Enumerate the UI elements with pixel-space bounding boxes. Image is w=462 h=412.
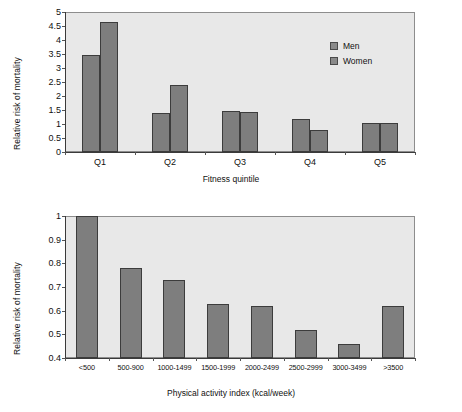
legend-label-men: Men — [343, 41, 360, 51]
y-tick-label: 0.7 — [48, 283, 61, 292]
bar — [251, 306, 273, 358]
x-axis-title-bottom: Physical activity index (kcal/week) — [0, 388, 462, 398]
x-tick-label: 1500-1999 — [201, 363, 235, 373]
x-tick-label: 3000-3499 — [332, 363, 366, 373]
x-tick-mark — [371, 358, 372, 361]
y-axis-ticks-top: 00.511.522.533.544.55 — [35, 0, 61, 172]
x-tick-label: 500-900 — [118, 363, 144, 373]
bar — [207, 304, 229, 358]
physical-activity-figure: Relative risk of mortality 0.40.50.60.70… — [0, 200, 462, 412]
x-tick-mark — [284, 358, 285, 361]
bar — [292, 119, 310, 152]
x-tick-label: 1000-1499 — [157, 363, 191, 373]
bar — [82, 55, 100, 152]
y-axis-line — [65, 12, 66, 152]
x-tick-mark — [240, 358, 241, 361]
y-tick-label: 3.5 — [48, 50, 61, 59]
x-tick-mark — [196, 358, 197, 361]
x-tick-label: Q4 — [304, 157, 316, 167]
legend-item-men: Men — [330, 40, 372, 52]
x-tick-label: Q1 — [94, 157, 106, 167]
y-tick-label: 0.4 — [48, 354, 61, 363]
y-tick-label: 0.5 — [48, 330, 61, 339]
y-axis-line — [65, 216, 66, 358]
x-tick-mark — [275, 152, 276, 155]
bar — [240, 112, 258, 152]
y-tick-label: 1.5 — [48, 106, 61, 115]
bar — [295, 330, 317, 358]
y-tick-label: 0.8 — [48, 259, 61, 268]
bar — [170, 85, 188, 152]
y-tick-label: 2 — [56, 92, 61, 101]
bar — [310, 130, 328, 152]
y-tick-label: 1 — [56, 212, 61, 221]
legend-swatch-women — [330, 57, 338, 65]
bar — [362, 123, 380, 152]
x-tick-mark — [415, 152, 416, 155]
bar — [100, 22, 118, 152]
y-tick-label: 4 — [56, 36, 61, 45]
legend-swatch-men — [330, 42, 338, 50]
y-axis-title-bottom: Relative risk of mortality — [12, 262, 22, 355]
y-tick-label: 5 — [56, 8, 61, 17]
y-tick-label: 0 — [56, 148, 61, 157]
y-axis-title-top: Relative risk of mortality — [12, 57, 22, 150]
x-tick-label: >3500 — [383, 363, 403, 373]
x-tick-label: <500 — [79, 363, 95, 373]
x-tick-mark — [345, 152, 346, 155]
bar — [382, 306, 404, 358]
x-tick-label: Q5 — [374, 157, 386, 167]
x-tick-mark — [135, 152, 136, 155]
y-tick-label: 0.6 — [48, 306, 61, 315]
x-tick-label: Q2 — [164, 157, 176, 167]
x-tick-label: 2500-2999 — [289, 363, 323, 373]
y-tick-label: 1 — [56, 120, 61, 129]
x-axis-title-top: Fitness quintile — [0, 174, 462, 184]
y-tick-label: 0.5 — [48, 134, 61, 143]
x-tick-label: 2000-2499 — [245, 363, 279, 373]
y-tick-label: 3 — [56, 64, 61, 73]
fitness-quintile-figure: Relative risk of mortality 00.511.522.53… — [0, 0, 462, 200]
x-tick-mark — [65, 152, 66, 155]
bar — [380, 123, 398, 152]
legend-label-women: Women — [343, 56, 372, 66]
bar — [152, 113, 170, 152]
x-tick-mark — [328, 358, 329, 361]
bar — [222, 111, 240, 152]
legend-item-women: Women — [330, 55, 372, 67]
bar — [338, 344, 360, 358]
y-tick-label: 4.5 — [48, 22, 61, 31]
y-tick-label: 0.9 — [48, 235, 61, 244]
x-tick-mark — [153, 358, 154, 361]
bar — [163, 280, 185, 358]
x-tick-mark — [205, 152, 206, 155]
bar — [76, 216, 98, 358]
plot-area-bottom — [65, 216, 415, 358]
legend-top: Men Women — [330, 40, 372, 70]
y-tick-label: 2.5 — [48, 78, 61, 87]
y-axis-ticks-bottom: 0.40.50.60.70.80.91 — [35, 200, 61, 378]
x-tick-mark — [65, 358, 66, 361]
x-tick-mark — [415, 358, 416, 361]
x-tick-mark — [109, 358, 110, 361]
x-axis-line — [65, 152, 415, 153]
bar — [120, 268, 142, 358]
x-tick-label: Q3 — [234, 157, 246, 167]
